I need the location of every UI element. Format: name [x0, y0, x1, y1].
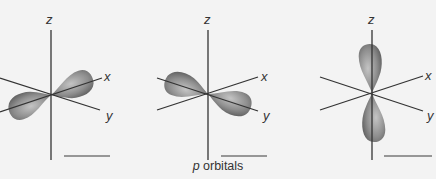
panel-px: z x y: [0, 12, 114, 160]
x-label: x: [260, 69, 268, 84]
figure-caption: p orbitals: [0, 159, 436, 173]
z-label: z: [45, 12, 53, 27]
x-label: x: [103, 69, 111, 84]
panel-pz: z x y: [320, 12, 435, 160]
y-label: y: [426, 108, 435, 123]
p-orbitals-diagram: z x y z x y z x y: [0, 0, 436, 179]
x-label: x: [424, 68, 432, 83]
z-label: z: [367, 12, 375, 27]
caption-italic: p: [193, 159, 200, 173]
y-label: y: [262, 108, 271, 123]
z-label: z: [203, 12, 211, 27]
y-label: y: [105, 108, 114, 123]
caption-text: orbitals: [200, 159, 244, 173]
panel-py: z x y: [157, 12, 271, 160]
